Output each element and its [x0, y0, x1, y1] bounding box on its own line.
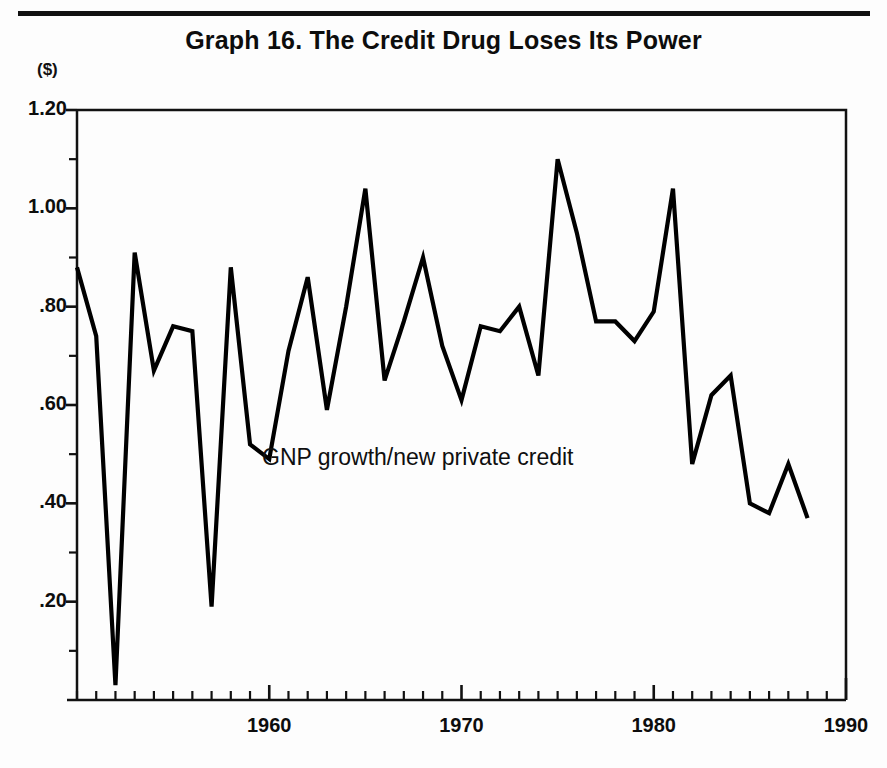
data-series-line [77, 159, 808, 685]
x-tick-label: 1970 [422, 714, 502, 737]
y-tick-label: 1.20 [5, 97, 67, 120]
y-tick-label: .40 [5, 490, 67, 513]
x-tick-label: 1960 [229, 714, 309, 737]
x-tick-label: 1980 [614, 714, 694, 737]
line-chart-svg [0, 0, 887, 768]
x-axis-ticks [77, 678, 846, 700]
y-tick-label: .60 [5, 392, 67, 415]
y-tick-label: .20 [5, 589, 67, 612]
y-tick-label: .80 [5, 294, 67, 317]
y-axis-ticks [66, 110, 77, 651]
y-tick-label: 1.00 [5, 195, 67, 218]
series-annotation-label: GNP growth/new private credit [262, 444, 574, 471]
chart-plot-area [0, 0, 887, 768]
figure-page: Graph 16. The Credit Drug Loses Its Powe… [0, 0, 887, 768]
x-tick-label: 1990 [806, 714, 886, 737]
